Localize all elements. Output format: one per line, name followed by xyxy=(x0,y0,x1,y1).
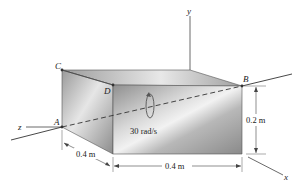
point-b-marker xyxy=(241,85,244,88)
height-dimension-label: 0.2 m xyxy=(246,115,266,125)
y-axis-label: y xyxy=(186,6,191,16)
point-c-marker xyxy=(61,69,64,72)
angular-velocity-label: 30 rad/s xyxy=(130,126,157,136)
height-arrow-bottom-icon xyxy=(254,148,258,153)
depth-dimension-label: 0.4 m xyxy=(76,149,96,159)
z-axis-label: z xyxy=(17,122,22,132)
block-front-face xyxy=(113,85,242,154)
point-d-marker xyxy=(112,84,115,87)
rigid-block-diagram: y z x A B C D 30 rad/s 0.4 m 0.4 m xyxy=(0,0,305,189)
x-axis xyxy=(248,157,283,175)
height-arrow-top-icon xyxy=(254,87,258,92)
point-c-label: C xyxy=(55,61,62,71)
point-a-marker xyxy=(61,126,64,129)
point-a-label: A xyxy=(53,117,60,127)
width-arrow-left-icon xyxy=(114,164,119,168)
point-d-label: D xyxy=(103,86,111,96)
depth-arrow-left-icon xyxy=(64,143,69,147)
width-dimension-label: 0.4 m xyxy=(165,161,185,171)
depth-arrow-right-icon xyxy=(105,162,110,166)
rotation-axis-outer-right xyxy=(242,74,292,86)
x-axis-label: x xyxy=(283,172,288,182)
point-b-label: B xyxy=(243,74,249,84)
width-arrow-right-icon xyxy=(236,164,241,168)
